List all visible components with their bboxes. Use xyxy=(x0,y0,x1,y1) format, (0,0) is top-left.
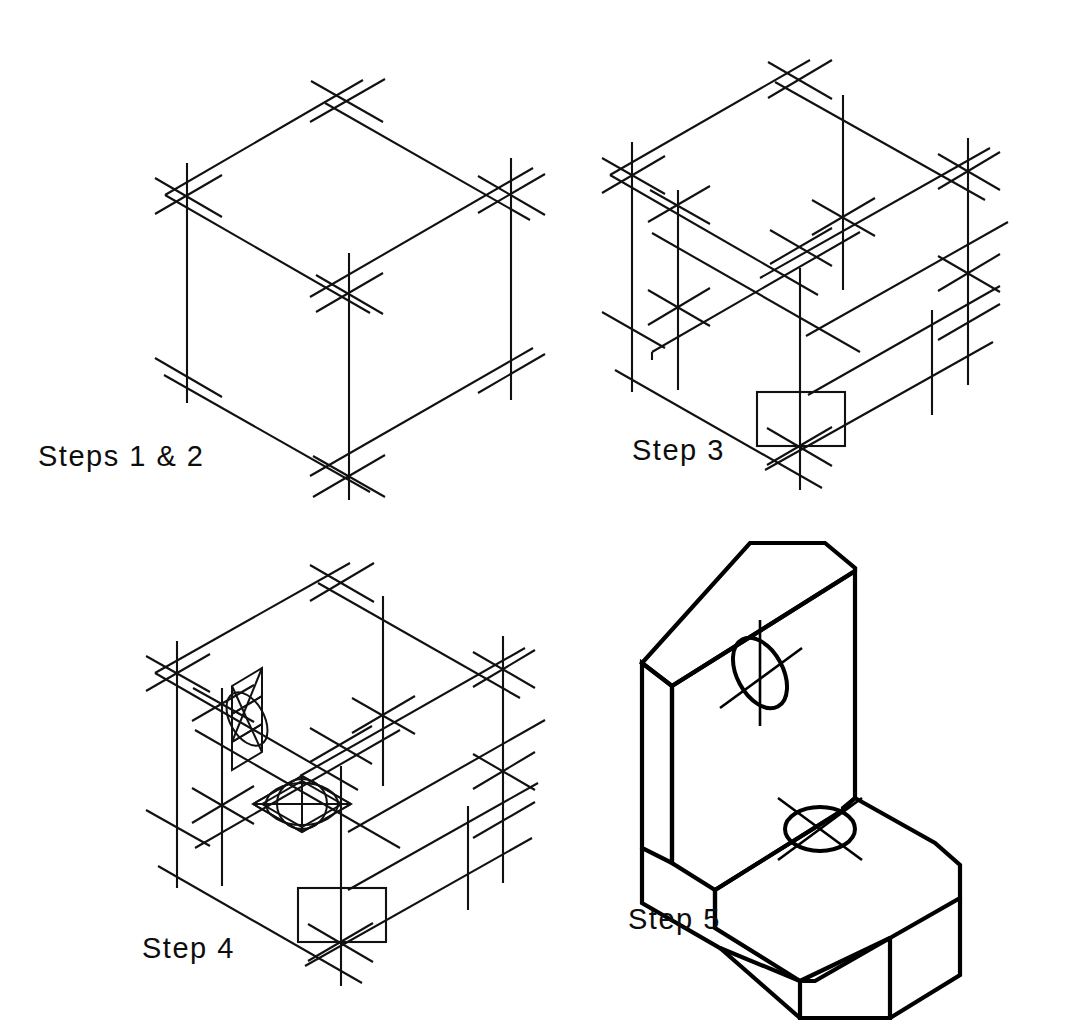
center-line-icon xyxy=(720,620,802,726)
vertex-cross-icon xyxy=(602,312,665,348)
horizontal-face-hole xyxy=(778,798,862,860)
horizontal-face-ellipse-construction xyxy=(253,776,351,832)
four-center-rhombus-icon xyxy=(253,776,351,832)
step-5-drawing xyxy=(560,508,1065,1028)
construction-cube-step3 xyxy=(610,60,1008,490)
vertex-cross-icon xyxy=(310,726,372,764)
vertical-face-hole xyxy=(720,620,802,726)
panel-step-5: Step 5 xyxy=(560,508,1065,1028)
caption-step-5: Step 5 xyxy=(628,903,721,936)
vertex-cross-icon xyxy=(155,358,222,397)
step-4-drawing xyxy=(0,508,560,1028)
vertex-cross-icon xyxy=(770,228,832,266)
drawing-sheet: Steps 1 & 2 xyxy=(0,0,1065,1028)
panel-step-4: Step 4 xyxy=(0,508,560,1028)
caption-step-4: Step 4 xyxy=(142,932,235,965)
l-bracket-solid xyxy=(642,543,960,1018)
caption-step-3: Step 3 xyxy=(632,434,725,467)
construction-cube-step12 xyxy=(164,80,533,500)
panel-steps-1-2: Steps 1 & 2 xyxy=(0,0,560,520)
construction-cube-step4 xyxy=(155,563,545,986)
vertical-face-ellipse-construction xyxy=(218,668,276,770)
caption-steps-1-2: Steps 1 & 2 xyxy=(38,440,204,473)
panel-step-3: Step 3 xyxy=(560,0,1065,520)
